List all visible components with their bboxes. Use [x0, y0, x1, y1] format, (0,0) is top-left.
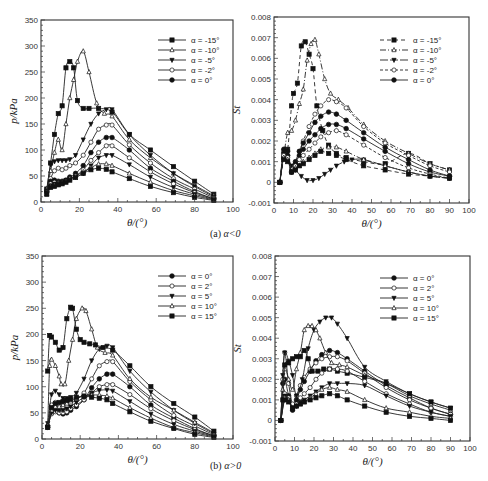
legend-label: α = 15° — [191, 312, 217, 321]
data-point-marker — [363, 379, 367, 383]
data-point-marker — [344, 106, 348, 110]
data-point-marker — [319, 114, 324, 119]
legend-label: α = 2° — [413, 284, 434, 293]
x-tick-label: 40 — [113, 205, 122, 214]
data-point-marker — [59, 382, 63, 386]
data-point-marker — [81, 153, 85, 157]
data-point-marker — [301, 87, 305, 91]
x-tick-label: 100 — [226, 442, 240, 451]
y-tick-label: 250 — [25, 68, 39, 77]
data-point-marker — [302, 348, 306, 352]
data-point-marker — [328, 91, 332, 95]
data-point-marker — [87, 70, 91, 74]
data-point-marker — [148, 184, 152, 188]
data-point-marker — [307, 124, 311, 128]
series-line — [48, 345, 214, 434]
data-point-marker — [287, 361, 291, 365]
legend: α = -15°α = -10°α = -5°α = -2°α = 0° — [158, 36, 220, 85]
data-point-marker — [383, 141, 387, 145]
data-point-marker — [49, 406, 53, 410]
legend-label: α = 5° — [413, 294, 434, 303]
x-tick-label: 80 — [426, 206, 435, 215]
data-point-marker — [295, 81, 299, 85]
data-point-marker — [110, 144, 114, 148]
legend-label: α = -5° — [191, 56, 215, 65]
data-point-marker — [313, 133, 318, 138]
x-axis-label: θ/(°) — [361, 217, 382, 230]
legend-label: α = 5° — [191, 292, 212, 301]
figure-canvas: 020406080100θ/(°)050100150200250300350p/… — [0, 0, 488, 481]
data-point-marker — [93, 343, 97, 347]
data-point-marker — [75, 99, 79, 103]
data-point-marker — [97, 127, 101, 131]
data-point-marker — [293, 168, 297, 172]
y-axis-label: St — [230, 105, 242, 115]
data-point-marker — [52, 132, 56, 136]
data-point-marker — [345, 359, 349, 363]
data-point-marker — [310, 369, 314, 373]
data-point-marker — [64, 122, 68, 126]
data-point-marker — [105, 383, 109, 387]
data-point-marker — [302, 400, 306, 404]
legend: α = 0°α = 2°α = 5°α = 10°α = 15° — [158, 272, 217, 321]
data-point-marker — [279, 418, 283, 422]
data-point-marker — [88, 342, 92, 346]
x-tick-label: 20 — [75, 205, 84, 214]
data-point-marker — [328, 367, 332, 371]
data-point-marker — [212, 429, 216, 433]
data-point-marker — [291, 91, 295, 95]
data-point-marker — [335, 350, 340, 355]
x-tick-label: 60 — [152, 442, 161, 451]
y-tick-label: 300 — [25, 42, 39, 51]
x-tick-label: 30 — [328, 206, 337, 215]
data-point-marker — [171, 165, 175, 169]
data-point-marker — [69, 397, 73, 401]
y-tick-label: 250 — [26, 304, 40, 313]
data-point-marker — [344, 158, 348, 162]
chart-a-stanton: 0102030405060708090100θ/(°)-0.00100.0010… — [230, 13, 476, 230]
y-tick-label: 0 — [34, 198, 39, 207]
y-tick-label: 350 — [25, 16, 39, 25]
data-point-marker — [306, 357, 310, 361]
data-point-marker — [294, 367, 298, 371]
y-tick-label: 0.007 — [251, 34, 272, 43]
data-point-marker — [326, 122, 331, 127]
data-point-marker — [316, 369, 320, 373]
data-point-marker — [299, 174, 303, 178]
data-point-marker — [128, 410, 132, 414]
caption-b-condition: α>0 — [224, 460, 241, 471]
data-point-marker — [171, 191, 175, 195]
data-point-marker — [148, 170, 152, 174]
x-tick-label: 30 — [329, 444, 338, 453]
legend-label: α = -15° — [413, 36, 442, 45]
data-point-marker — [319, 104, 323, 108]
data-point-marker — [287, 400, 291, 404]
data-point-marker — [301, 153, 305, 157]
legend-marker — [392, 68, 396, 72]
y-tick-label: 50 — [30, 409, 39, 418]
x-tick-label: 100 — [463, 444, 477, 453]
legend-label: α = 15° — [413, 314, 439, 323]
data-point-marker — [104, 167, 108, 171]
data-point-marker — [64, 66, 68, 70]
legend-label: α = -5° — [413, 56, 437, 65]
data-point-marker — [45, 192, 49, 196]
data-point-marker — [307, 130, 312, 135]
x-tick-label: 70 — [406, 206, 415, 215]
data-point-marker — [149, 419, 153, 423]
data-point-marker — [447, 170, 451, 174]
data-point-marker — [335, 367, 339, 371]
data-point-marker — [111, 360, 115, 364]
data-point-marker — [172, 401, 176, 405]
data-point-marker — [110, 135, 115, 140]
data-point-marker — [448, 406, 452, 410]
data-point-marker — [363, 375, 367, 379]
data-point-marker — [334, 153, 338, 157]
legend-label: α = -2° — [191, 66, 215, 75]
data-point-marker — [307, 158, 311, 162]
data-point-marker — [89, 158, 93, 162]
data-point-marker — [81, 106, 85, 110]
data-point-marker — [313, 153, 317, 157]
y-tick-label: 0.006 — [251, 54, 272, 63]
data-point-marker — [406, 172, 410, 176]
